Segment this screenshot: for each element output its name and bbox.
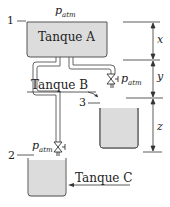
pipe-to-tank-b — [69, 57, 115, 74]
patm-label-valve-2: patm — [32, 140, 53, 154]
valve-b-icon — [107, 74, 118, 88]
pipe-to-tank-c — [33, 57, 60, 142]
tank-b-label: Tanque B — [31, 79, 88, 91]
tank-a-label: Tanque A — [38, 31, 95, 43]
patm-label-tank-a: patm — [55, 5, 76, 19]
dimension-y-label: y — [157, 71, 163, 82]
dimension-x-label: x — [157, 34, 163, 45]
point-1-label: 1 — [7, 15, 14, 26]
patm-label-valve-b: patm — [121, 73, 142, 87]
dimension-z-label: z — [157, 121, 163, 132]
point-3-label: 3 — [79, 97, 86, 108]
tank-c-label: Tanque C — [75, 172, 132, 184]
valve-2-icon — [54, 142, 65, 156]
point-2-label: 2 — [8, 150, 15, 161]
